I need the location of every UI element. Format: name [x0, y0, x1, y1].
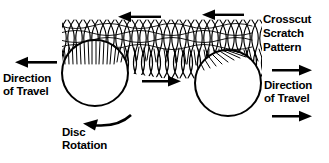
label-direction-of-travel-right: Direction of Travel	[264, 79, 312, 105]
label-disc-rotation: Disc Rotation	[62, 126, 107, 152]
right-travel-arrow-bottom	[272, 111, 312, 122]
label-crosscut-scratch-pattern: Crosscut Scratch Pattern	[263, 12, 311, 54]
right-travel-arrow-top	[272, 65, 312, 76]
left-disc-scratch-fringe	[64, 37, 124, 64]
disc-right	[195, 50, 261, 116]
crosscut-scratch-pattern-texture	[60, 20, 267, 78]
top-right-arrow	[202, 10, 244, 20]
crosscut-scratch-pattern-diagram: Crosscut Scratch Pattern Direction of Tr…	[0, 0, 329, 163]
label-direction-of-travel-left: Direction of Travel	[3, 72, 51, 98]
left-travel-arrow	[15, 57, 57, 68]
disc-left	[62, 40, 128, 106]
